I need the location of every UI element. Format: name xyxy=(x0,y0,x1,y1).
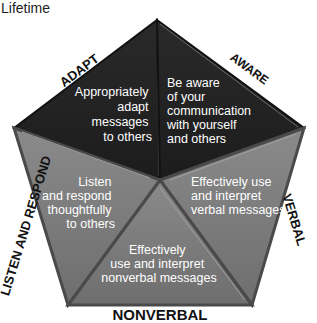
edge-label-nonverbal: NONVERBAL xyxy=(112,306,207,323)
edge-label-verbal: VERBAL xyxy=(279,192,309,248)
communication-pentagon-diagram: Appropriately adapt messages to others B… xyxy=(0,0,317,323)
